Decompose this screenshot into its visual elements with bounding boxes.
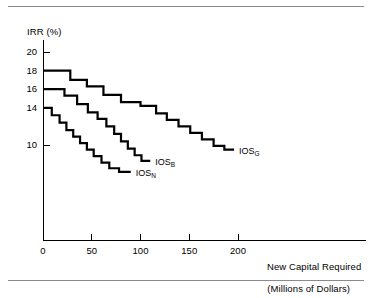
series-label-subscript: B bbox=[171, 161, 175, 168]
x-tick-label: 100 bbox=[129, 246, 153, 256]
x-tick-label: 50 bbox=[80, 246, 104, 256]
series-label-subscript: N bbox=[151, 172, 156, 179]
series-label-text: IOS bbox=[136, 168, 152, 178]
x-axis-title-line1: New Capital Required bbox=[267, 261, 361, 272]
series-label-ios-g: IOSG bbox=[239, 146, 260, 156]
series-label-ios-b: IOSB bbox=[155, 157, 175, 167]
series-line-ios-b bbox=[43, 89, 150, 161]
x-tick-label: 150 bbox=[177, 246, 201, 256]
y-tick-label: 16 bbox=[17, 84, 37, 94]
series-label-ios-n: IOSN bbox=[136, 168, 156, 178]
y-axis-title: IRR (%) bbox=[27, 26, 61, 37]
series-line-ios-g bbox=[43, 71, 234, 150]
series-lines-group bbox=[43, 71, 234, 172]
x-axis-title-line2: (Millions of Dollars) bbox=[256, 283, 361, 294]
y-tick-label: 10 bbox=[17, 140, 37, 150]
series-label-subscript: G bbox=[255, 150, 260, 157]
series-label-text: IOS bbox=[239, 146, 255, 156]
x-tick-label: 0 bbox=[31, 246, 55, 256]
y-tick-label: 14 bbox=[17, 103, 37, 113]
series-line-ios-n bbox=[43, 108, 131, 172]
y-tick-label: 18 bbox=[17, 66, 37, 76]
x-tick-label: 200 bbox=[226, 246, 250, 256]
series-label-text: IOS bbox=[155, 157, 171, 167]
y-tick-label: 20 bbox=[17, 47, 37, 57]
x-axis-title: New Capital Required (Millions of Dollar… bbox=[256, 250, 361, 298]
